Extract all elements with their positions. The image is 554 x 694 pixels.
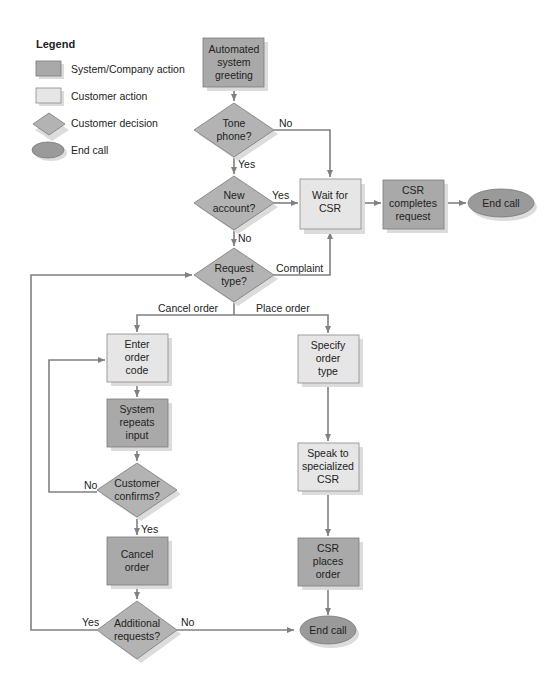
node-tone-phone: Tone phone?: [194, 103, 278, 161]
edge-place-order: [234, 315, 328, 333]
edge-label-tone-yes: Yes: [238, 158, 255, 170]
edge-label-additional-no: No: [181, 616, 195, 628]
legend-item-end: End call: [32, 142, 108, 161]
node-csr-places-order: CSR places order: [298, 538, 363, 590]
node-end-call-top: End call: [468, 189, 537, 221]
svg-text:CSR: CSR: [319, 202, 342, 214]
svg-text:Cancel: Cancel: [121, 548, 154, 560]
svg-text:Wait for: Wait for: [312, 189, 348, 201]
edge-label-new-no: No: [238, 232, 252, 244]
node-additional-requests: Additional requests?: [97, 601, 181, 663]
svg-text:CSR: CSR: [402, 184, 425, 196]
svg-text:Tone: Tone: [223, 117, 246, 129]
svg-text:input: input: [126, 429, 149, 441]
node-specify-order-type: Specify order type: [298, 335, 363, 387]
svg-text:Additional: Additional: [114, 617, 160, 629]
svg-text:CSR: CSR: [317, 473, 340, 485]
legend-item-system: System/Company action: [36, 61, 185, 79]
legend-item-decision: Customer decision: [33, 113, 158, 141]
legend-label-end: End call: [71, 144, 108, 156]
legend-title: Legend: [36, 38, 75, 50]
node-end-call-bottom: End call: [300, 616, 359, 648]
svg-text:account?: account?: [213, 202, 256, 214]
node-csr-completes-request: CSR completes request: [383, 180, 448, 233]
legend-customer-swatch-icon: [36, 88, 61, 103]
legend: Legend System/Company action Customer ac…: [32, 38, 185, 161]
legend-label-system: System/Company action: [71, 63, 185, 75]
edge-label-tone-no: No: [279, 117, 293, 129]
svg-text:repeats: repeats: [119, 416, 154, 428]
svg-text:order: order: [316, 352, 341, 364]
legend-label-customer: Customer action: [71, 90, 148, 102]
edge-label-new-yes: Yes: [272, 189, 289, 201]
svg-text:system: system: [217, 56, 251, 68]
call-flow-diagram: Legend System/Company action Customer ac…: [0, 0, 554, 694]
svg-text:System: System: [119, 403, 154, 415]
node-new-account: New account?: [194, 176, 278, 234]
svg-text:order: order: [316, 568, 341, 580]
svg-text:type: type: [318, 365, 338, 377]
edge-tone-no: [274, 130, 330, 177]
svg-text:phone?: phone?: [216, 130, 251, 142]
node-customer-confirms: Customer confirms?: [97, 463, 181, 521]
node-speak-to-specialized-csr: Speak to specialized CSR: [298, 443, 363, 495]
node-system-repeats-input: System repeats input: [107, 399, 172, 451]
svg-text:End call: End call: [482, 197, 519, 209]
svg-text:greeting: greeting: [215, 69, 253, 81]
svg-text:Speak to: Speak to: [307, 447, 349, 459]
svg-text:Enter: Enter: [124, 338, 150, 350]
legend-label-decision: Customer decision: [71, 117, 158, 129]
node-request-type: Request type?: [194, 248, 278, 306]
edge-label-confirm-no: No: [84, 479, 98, 491]
svg-text:request: request: [395, 210, 430, 222]
svg-text:code: code: [126, 364, 149, 376]
svg-text:type?: type?: [221, 275, 247, 287]
svg-text:places: places: [313, 555, 343, 567]
svg-text:Customer: Customer: [114, 477, 160, 489]
edge-cancel-order: [137, 315, 234, 332]
svg-text:CSR: CSR: [317, 542, 340, 554]
svg-text:New: New: [223, 189, 244, 201]
svg-text:order: order: [125, 351, 150, 363]
svg-text:confirms?: confirms?: [114, 490, 160, 502]
node-wait-for-csr: Wait for CSR: [300, 179, 365, 234]
legend-end-swatch-icon: [32, 142, 64, 158]
svg-text:requests?: requests?: [114, 630, 160, 642]
svg-text:order: order: [125, 561, 150, 573]
svg-text:specialized: specialized: [302, 460, 354, 472]
svg-text:Automated: Automated: [209, 43, 260, 55]
edge-label-place-order: Place order: [256, 302, 310, 314]
svg-text:Specify: Specify: [311, 339, 346, 351]
node-enter-order-code: Enter order code: [107, 334, 172, 386]
edge-label-additional-yes: Yes: [82, 616, 99, 628]
svg-text:Request: Request: [214, 262, 253, 274]
svg-text:End call: End call: [309, 624, 346, 636]
node-automated-greeting: Automated system greeting: [203, 38, 268, 91]
node-cancel-order: Cancel order: [107, 537, 172, 589]
edge-label-confirm-yes: Yes: [141, 523, 158, 535]
edge-confirm-no: [49, 360, 105, 492]
legend-item-customer: Customer action: [36, 88, 148, 106]
legend-system-swatch-icon: [36, 61, 61, 76]
svg-text:completes: completes: [389, 197, 437, 209]
edge-label-complaint: Complaint: [276, 262, 323, 274]
edge-label-cancel-order: Cancel order: [158, 302, 219, 314]
